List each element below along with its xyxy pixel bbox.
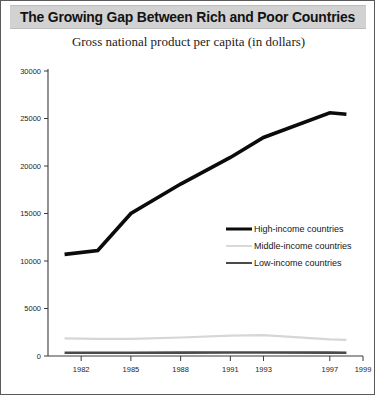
legend-label-high-income: High-income countries	[254, 224, 344, 234]
x-tick-label: 1991	[222, 365, 239, 374]
legend-item-high-income: High-income countries	[226, 220, 371, 237]
legend-label-low-income: Low-income countries	[254, 258, 342, 268]
y-tick-label: 5000	[24, 304, 41, 313]
x-tick-label: 1999	[355, 365, 372, 374]
legend-item-middle-income: Middle-income countries	[226, 237, 371, 254]
x-tick-label: 1988	[172, 365, 189, 374]
legend-label-middle-income: Middle-income countries	[254, 241, 352, 251]
legend-swatch-middle-income-icon	[226, 241, 252, 251]
legend-swatch-low-income-icon	[226, 258, 252, 268]
x-tick-label: 1997	[321, 365, 338, 374]
plot-area: 050001000015000200002500030000 198219851…	[1, 1, 375, 395]
y-tick-label: 15000	[20, 209, 41, 218]
chart-legend: High-income countries Middle-income coun…	[226, 220, 371, 271]
y-tick-label: 25000	[20, 114, 41, 123]
y-tick-label: 20000	[20, 162, 41, 171]
legend-item-low-income: Low-income countries	[226, 254, 371, 271]
y-tick-label: 0	[37, 352, 41, 361]
line-chart-svg: 050001000015000200002500030000 198219851…	[1, 1, 375, 395]
legend-swatch-high-income-icon	[226, 224, 252, 234]
x-tick-label: 1985	[123, 365, 140, 374]
y-axis: 050001000015000200002500030000	[20, 67, 48, 361]
x-tick-label: 1982	[73, 365, 90, 374]
y-tick-label: 10000	[20, 257, 41, 266]
x-tick-label: 1993	[255, 365, 272, 374]
chart-figure: The Growing Gap Between Rich and Poor Co…	[0, 0, 375, 395]
series-line-middle-income	[65, 335, 347, 340]
x-axis: 1982198519881991199319971999	[48, 356, 371, 374]
y-tick-label: 30000	[20, 67, 41, 76]
